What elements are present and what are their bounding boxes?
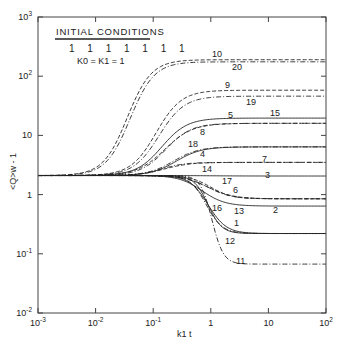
curve-label-18: 18 — [188, 139, 198, 149]
curve-2 — [38, 176, 326, 207]
x-tick-label: 102 — [319, 316, 333, 328]
curve-label-14: 14 — [202, 164, 212, 174]
legend-constants: K0 = K1 = 1 — [77, 56, 125, 66]
curve-group — [38, 60, 326, 264]
curve-label-19: 19 — [246, 97, 256, 107]
y-tick-label: 10-2 — [16, 306, 32, 318]
curve-label-9: 9 — [225, 80, 230, 90]
curve-12 — [38, 176, 326, 234]
x-tick-label: 10-3 — [30, 316, 46, 328]
curve-8 — [38, 123, 326, 175]
curve-15 — [38, 123, 326, 175]
curve-9 — [38, 90, 326, 175]
curve-label-13: 13 — [234, 206, 244, 216]
curve-label-17: 17 — [222, 176, 232, 186]
x-tick-label: 10-2 — [88, 316, 104, 328]
curve-4 — [38, 147, 326, 176]
curve-label-1: 1 — [234, 218, 239, 228]
curve-11 — [38, 176, 326, 265]
y-tick-label: 10-1 — [16, 247, 32, 259]
curve-1 — [38, 176, 326, 234]
curve-label-12: 12 — [225, 236, 235, 246]
curve-label-5: 5 — [228, 110, 233, 120]
y-tick-label: 103 — [18, 10, 32, 22]
curve-label-8: 8 — [200, 127, 205, 137]
x-tick-label: 10 — [263, 318, 273, 328]
curve-label-10: 10 — [212, 49, 222, 59]
curve-label-4: 4 — [200, 149, 205, 159]
x-axis-title: k1 t — [177, 329, 192, 339]
y-tick-label: 1 — [27, 190, 32, 200]
y-axis-title: <Q>w - 1 — [8, 153, 18, 190]
axis-ticks: 10-310-210-111010210310210110-110-2 — [16, 10, 333, 328]
curve-label-15: 15 — [270, 108, 280, 118]
curve-16 — [38, 176, 326, 234]
curve-label-3: 3 — [265, 170, 270, 180]
y-tick-label: 10 — [22, 130, 32, 140]
curve-label-20: 20 — [232, 62, 242, 72]
curve-label-2: 2 — [273, 205, 278, 215]
curve-label-6: 6 — [233, 185, 238, 195]
legend-title: INITIAL CONDITIONS — [56, 26, 165, 37]
legend-initial-marks: 1 1 1 1 1 1 1 — [69, 43, 190, 54]
curve-label-11: 11 — [236, 256, 245, 266]
curve-18 — [38, 147, 326, 176]
curve-label-16: 16 — [212, 203, 222, 213]
curve-label-7: 7 — [262, 154, 267, 164]
line-chart: 10-310-210-111010210310210110-110-2 1020… — [0, 0, 344, 350]
x-tick-label: 10-1 — [145, 316, 161, 328]
y-tick-label: 102 — [18, 69, 32, 81]
curve-19 — [38, 96, 326, 175]
x-tick-label: 1 — [208, 318, 213, 328]
legend: INITIAL CONDITIONS 1 1 1 1 1 1 1 K0 = K1… — [55, 26, 190, 66]
